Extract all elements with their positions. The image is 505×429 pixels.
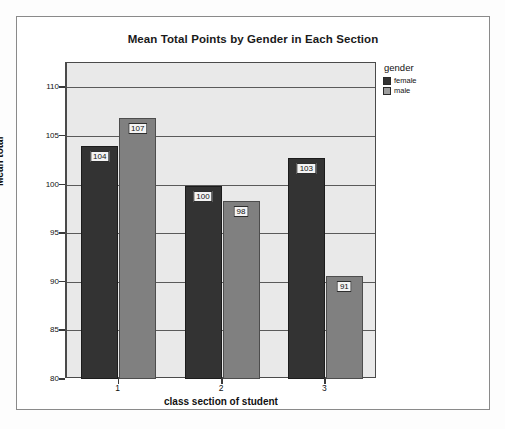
legend-item-female[interactable]: female: [383, 76, 483, 85]
y-axis-tick-label: 110: [33, 82, 59, 91]
bar-value-label: 100: [193, 191, 212, 202]
bar-value-label: 91: [337, 281, 352, 292]
x-axis-tick-label: 3: [309, 383, 339, 393]
gridline: [67, 87, 375, 88]
bar-male-section-1[interactable]: [119, 118, 156, 379]
bar-value-label: 107: [128, 123, 147, 134]
y-axis-tick: [59, 281, 65, 283]
bar-value-label: 104: [90, 151, 109, 162]
y-axis-tick: [59, 86, 65, 88]
y-axis-tick: [59, 378, 65, 380]
legend: gender femalemale: [383, 62, 483, 96]
plot-inner: 1041071009810391: [67, 63, 375, 377]
x-axis-tick-label: 1: [103, 383, 133, 393]
gridline: [67, 136, 375, 137]
y-axis-tick-label: 95: [33, 228, 59, 237]
y-axis-title: Mean total: [0, 137, 5, 186]
y-axis-line: [65, 62, 67, 378]
legend-swatch-icon: [383, 77, 391, 85]
bar-female-section-1[interactable]: [81, 146, 118, 379]
plot-area: 1041071009810391: [66, 62, 376, 378]
y-axis-tick: [59, 232, 65, 234]
y-axis-tick-label: 100: [33, 179, 59, 188]
chart-page: Mean Total Points by Gender in Each Sect…: [0, 0, 505, 429]
bar-female-section-3[interactable]: [288, 158, 325, 379]
y-axis-tick-label: 90: [33, 276, 59, 285]
y-axis-tick: [59, 329, 65, 331]
x-axis-tick-label: 2: [206, 383, 236, 393]
legend-items: femalemale: [383, 76, 483, 95]
legend-item-male[interactable]: male: [383, 86, 483, 95]
legend-item-label: female: [394, 76, 417, 85]
x-axis-title: class section of student: [66, 396, 376, 407]
bar-male-section-2[interactable]: [223, 201, 260, 379]
legend-swatch-icon: [383, 87, 391, 95]
bar-female-section-2[interactable]: [185, 186, 222, 379]
chart-title: Mean Total Points by Gender in Each Sect…: [16, 33, 490, 45]
bar-value-label: 103: [297, 163, 316, 174]
bar-value-label: 98: [234, 206, 249, 217]
y-axis-tick: [59, 184, 65, 186]
y-axis-tick-label: 80: [33, 374, 59, 383]
legend-item-label: male: [394, 86, 410, 95]
y-axis-tick-label: 85: [33, 325, 59, 334]
y-axis-tick: [59, 135, 65, 137]
legend-title: gender: [384, 62, 483, 73]
y-axis-tick-label: 105: [33, 130, 59, 139]
